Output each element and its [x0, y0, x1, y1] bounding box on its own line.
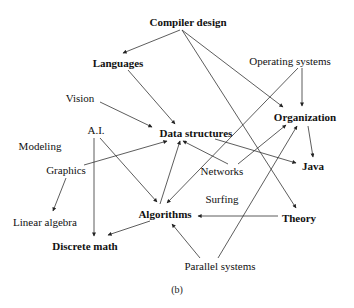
- node-discrete: Discrete math: [52, 241, 117, 252]
- node-algorithms: Algorithms: [138, 209, 191, 220]
- edge-algorithms-to-discrete: [108, 221, 150, 235]
- edge-vision-to-datastructures: [100, 102, 152, 127]
- node-organization: Organization: [274, 112, 336, 123]
- node-languages: Languages: [93, 58, 144, 69]
- edge-graphics-to-datastructures: [84, 141, 167, 165]
- node-java: Java: [302, 161, 324, 172]
- edge-datastructures-to-java: [215, 139, 296, 163]
- edge-compiler-to-organization: [182, 30, 283, 107]
- edge-algorithms-to-datastructures: [160, 141, 180, 204]
- edge-compiler-to-languages: [123, 30, 180, 53]
- edge-parallel-to-algorithms: [172, 224, 200, 258]
- node-surfing: Surfing: [206, 194, 239, 205]
- node-theory: Theory: [282, 213, 316, 224]
- node-compiler: Compiler design: [149, 17, 226, 28]
- edge-ai-to-algorithms: [100, 138, 157, 202]
- node-graphics: Graphics: [46, 165, 86, 176]
- node-datastructures: Data structures: [160, 128, 233, 139]
- prerequisite-graph: Compiler designLanguagesOperating system…: [0, 0, 354, 308]
- node-vision: Vision: [66, 93, 95, 104]
- node-parallel: Parallel systems: [184, 261, 255, 272]
- edge-networks-to-datastructures: [183, 141, 228, 164]
- node-modeling: Modeling: [19, 141, 62, 152]
- figure-caption: (b): [171, 284, 183, 295]
- edge-layer: [0, 0, 354, 308]
- node-opsys: Operating systems: [249, 56, 331, 67]
- node-linalg: Linear algebra: [13, 217, 77, 228]
- node-ai: A.I.: [87, 125, 104, 136]
- edge-languages-to-datastructures: [128, 70, 175, 124]
- node-networks: Networks: [201, 166, 244, 177]
- edge-organization-to-java: [308, 126, 313, 157]
- edge-graphics-to-linalg: [53, 178, 66, 211]
